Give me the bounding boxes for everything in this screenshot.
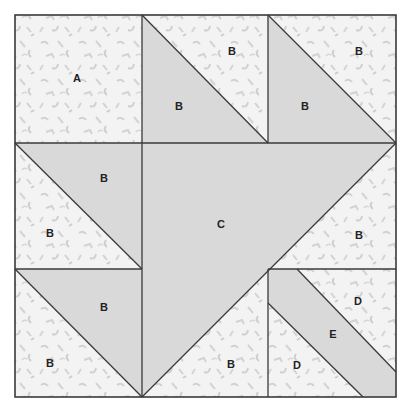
label-e: E [329, 328, 336, 340]
label-c: C [217, 218, 225, 230]
label-b-top-right-shaded: B [301, 100, 309, 112]
label-a: A [73, 72, 81, 84]
quilt-block-diagram: A B B B B B B C B B B B D E D [0, 0, 409, 408]
label-b-top-middle-print: B [228, 45, 236, 57]
label-b-bottom-left-print: B [46, 357, 54, 369]
label-b-mid-right-print: B [355, 229, 363, 241]
label-d-lower: D [293, 359, 301, 371]
label-b-bottom-middle-print: B [227, 358, 235, 370]
label-b-bottom-left-shaded: B [100, 301, 108, 313]
label-d-upper: D [354, 295, 362, 307]
label-b-top-right-print: B [355, 45, 363, 57]
label-b-mid-left-print: B [46, 227, 54, 239]
label-b-top-middle-shaded: B [175, 100, 183, 112]
label-b-mid-left-shaded: B [100, 172, 108, 184]
